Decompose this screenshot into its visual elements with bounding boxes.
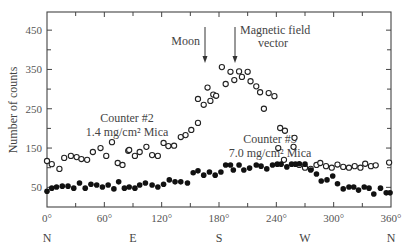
open-circle-point [90,149,95,154]
filled-circle-point [308,167,314,173]
filled-circle-point [351,184,357,190]
counter3-annotation-line1: Counter #3 [243,132,297,146]
open-circle-point [239,74,244,79]
filled-circle-point [143,180,149,186]
filled-circle-point [258,163,264,169]
filled-circle-point [228,162,234,168]
open-circle-point [201,102,206,107]
open-circle-point [363,161,368,166]
open-circle-point [254,84,259,89]
filled-circle-point [49,185,55,191]
open-circle-point [318,160,323,165]
open-circle-point [68,153,73,158]
filled-circle-point [231,167,237,173]
filled-circle-point [314,171,320,177]
filled-circle-point [387,190,393,196]
y-tick-label: 250 [26,103,43,115]
open-circle-point [257,90,262,95]
filled-circle-point [137,182,143,188]
direction-label: N [387,231,396,245]
x-tick-label: 300° [323,212,344,224]
filled-circle-point [172,179,178,185]
filled-circle-point [241,167,247,173]
filled-circle-point [116,179,122,185]
open-circle-point [232,77,237,82]
y-tick-label: 350 [26,63,43,75]
filled-circle-point [270,162,276,168]
open-circle-point [272,94,277,99]
counts-vs-azimuth-chart: 0°60°120°180°240°300°360° NESWN 50150250… [0,0,412,249]
open-circle-point [205,85,210,90]
open-circle-point [195,96,200,101]
open-circle-point [98,145,103,150]
compass-direction-labels: NESWN [43,231,396,245]
filled-circle-point [94,182,100,188]
filled-circle-point [346,184,352,190]
filled-circle-point [330,173,336,179]
open-circle-point [104,153,109,158]
filled-circle-point [122,185,128,191]
filled-circle-point [223,162,229,168]
open-circle-point [292,135,297,140]
x-tick-label: 180° [209,212,230,224]
filled-circle-point [149,182,155,188]
direction-label: E [129,231,136,245]
filled-circle-point [126,184,132,190]
filled-circle-point [356,187,362,193]
open-circle-point [189,127,194,132]
open-circle-point [183,132,188,137]
filled-circle-point [236,162,242,168]
magnetic-field-annotation-line1: Magnetic field [240,23,310,37]
filled-circle-point [378,185,384,191]
counter2-series [44,64,391,171]
filled-circle-point [167,177,173,183]
filled-circle-point [284,164,290,170]
plot-frame [47,12,391,207]
open-circle-point [144,144,149,149]
open-circle-point [208,98,213,103]
open-circle-point [335,162,340,167]
x-tick-label: 360° [381,212,402,224]
filled-circle-point [212,172,218,178]
filled-circle-point [100,184,106,190]
open-circle-point [373,163,378,168]
x-axis-ticks [76,12,363,207]
counter2-annotation-line1: Counter #2 [100,111,154,125]
y-axis-tick-labels: 50150250350450 [26,24,43,193]
filled-circle-point [82,185,88,191]
x-tick-label: 120° [151,212,172,224]
open-circle-point [219,64,224,69]
filled-circle-point [278,161,284,167]
open-circle-point [150,153,155,158]
open-circle-point [155,153,160,158]
open-circle-point [161,140,166,145]
direction-label: S [216,231,223,245]
filled-circle-point [335,181,341,187]
filled-circle-point [178,179,184,185]
open-circle-point [261,106,266,111]
filled-circle-point [190,170,196,176]
open-circle-point [120,162,125,167]
y-tick-label: 50 [31,181,43,193]
y-tick-label: 150 [26,142,43,154]
filled-circle-point [366,185,372,191]
open-circle-point [248,79,253,84]
filled-circle-point [296,161,302,167]
filled-circle-point [155,184,161,190]
filled-circle-point [264,166,270,172]
open-circle-point [291,144,296,149]
filled-circle-point [44,188,50,194]
y-axis-label: Number of counts [6,66,20,153]
open-circle-point [245,69,250,74]
open-circle-point [85,157,90,162]
x-tick-label: 0° [42,212,52,224]
magnetic-field-arrow-icon [233,27,238,63]
open-circle-point [386,160,391,165]
open-circle-point [171,143,176,148]
open-circle-point [49,162,54,167]
filled-circle-point [77,180,83,186]
filled-circle-point [54,184,60,190]
open-circle-point [323,164,328,169]
filled-circle-point [218,169,224,175]
open-circle-point [358,165,363,170]
